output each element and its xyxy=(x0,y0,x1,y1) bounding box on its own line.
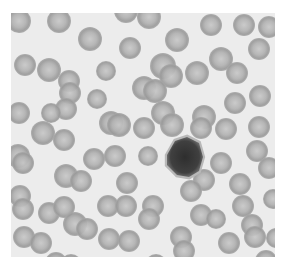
red-blood-cell xyxy=(12,152,34,174)
red-blood-cell xyxy=(200,14,222,36)
red-blood-cell xyxy=(53,129,75,151)
red-blood-cell xyxy=(45,252,67,257)
red-blood-cell xyxy=(96,61,116,81)
red-blood-cell xyxy=(210,152,232,174)
red-blood-cell xyxy=(107,113,131,137)
red-blood-cell xyxy=(30,232,52,254)
red-blood-cell xyxy=(206,209,226,229)
red-blood-cell xyxy=(165,28,189,52)
blood-smear-micrograph: Blood smear micrograph with red blood ce… xyxy=(11,13,275,257)
red-blood-cell xyxy=(218,232,240,254)
red-blood-cell xyxy=(160,113,184,137)
lymphocyte xyxy=(165,135,205,180)
red-blood-cell xyxy=(87,89,107,109)
red-blood-cell xyxy=(138,146,158,166)
red-blood-cell xyxy=(83,148,105,170)
red-blood-cell xyxy=(244,226,266,248)
red-blood-cell xyxy=(37,58,61,82)
red-blood-cell xyxy=(41,103,61,123)
red-blood-cell xyxy=(14,54,36,76)
red-blood-cell xyxy=(115,195,137,217)
red-blood-cell xyxy=(11,102,30,124)
red-blood-cell xyxy=(98,228,120,250)
red-blood-cell xyxy=(229,173,251,195)
red-blood-cell xyxy=(118,230,140,252)
red-blood-cell xyxy=(266,228,275,248)
red-blood-cell xyxy=(248,116,270,138)
red-blood-cell xyxy=(104,145,126,167)
red-blood-cell xyxy=(133,117,155,139)
red-blood-cell xyxy=(12,198,34,220)
red-blood-cell xyxy=(226,62,248,84)
red-blood-cell xyxy=(31,121,55,145)
cell-field xyxy=(11,13,275,257)
red-blood-cell xyxy=(233,14,255,36)
red-blood-cell xyxy=(143,79,167,103)
red-blood-cell xyxy=(78,27,102,51)
red-blood-cell xyxy=(190,117,212,139)
red-blood-cell xyxy=(263,189,275,209)
red-blood-cell xyxy=(119,37,141,59)
red-blood-cell xyxy=(224,92,246,114)
red-blood-cell xyxy=(76,218,98,240)
red-blood-cell xyxy=(47,13,71,33)
red-blood-cell xyxy=(258,16,275,38)
red-blood-cell xyxy=(116,172,138,194)
red-blood-cell xyxy=(232,195,254,217)
red-blood-cell xyxy=(255,250,275,257)
red-blood-cell xyxy=(11,13,31,33)
red-blood-cell xyxy=(114,13,138,23)
red-blood-cell xyxy=(137,13,161,29)
red-blood-cell xyxy=(248,38,270,60)
red-blood-cells xyxy=(11,13,275,257)
red-blood-cell xyxy=(70,170,92,192)
red-blood-cell xyxy=(180,180,202,202)
red-blood-cell xyxy=(138,208,160,230)
red-blood-cell xyxy=(185,61,209,85)
red-blood-cell xyxy=(249,85,271,107)
red-blood-cell xyxy=(215,118,237,140)
red-blood-cell xyxy=(145,254,167,257)
